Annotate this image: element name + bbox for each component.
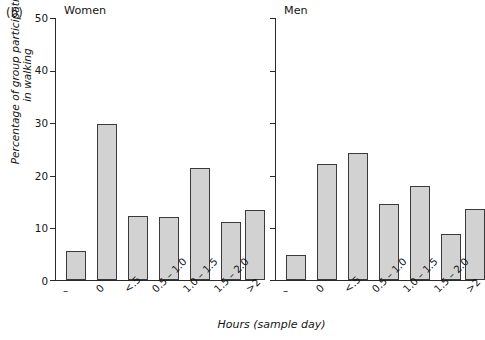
y-tick-label-0: 0 bbox=[26, 275, 48, 287]
y-axis-title: Percentage of group participating in wal… bbox=[9, 0, 39, 175]
women-tick-10 bbox=[50, 228, 55, 229]
y-tick-label-30: 30 bbox=[26, 117, 48, 129]
x-tick-label-women-0: – bbox=[63, 285, 68, 296]
bar-men-gt-2 bbox=[465, 209, 485, 280]
x-tick-label-women-1: 0 bbox=[94, 282, 106, 294]
men-tick-20 bbox=[270, 176, 275, 177]
bar-women-dash bbox=[66, 251, 86, 280]
x-axis-title: Hours (sample day) bbox=[0, 318, 483, 331]
panel-women: Women bbox=[55, 18, 256, 281]
women-tick-30 bbox=[50, 123, 55, 124]
bar-women-lt-half bbox=[128, 216, 148, 280]
panel-men: Men bbox=[275, 18, 476, 281]
women-tick-40 bbox=[50, 71, 55, 72]
bar-women-gt-2 bbox=[245, 210, 265, 280]
y-axis-title-line-1: Percentage of group participating bbox=[9, 0, 21, 175]
men-tick-50 bbox=[270, 18, 275, 19]
x-tick-label-men-1: 0 bbox=[314, 282, 326, 294]
panel-title-men: Men bbox=[284, 4, 308, 17]
men-tick-0 bbox=[270, 280, 275, 281]
women-tick-0 bbox=[50, 280, 55, 281]
x-tick-label-men-0: – bbox=[283, 285, 288, 296]
y-tick-label-20: 20 bbox=[26, 170, 48, 182]
y-tick-label-40: 40 bbox=[26, 64, 48, 76]
bar-women-0 bbox=[97, 124, 117, 280]
men-tick-40 bbox=[270, 71, 275, 72]
women-y-axis bbox=[55, 18, 56, 281]
y-tick-label-50: 50 bbox=[26, 12, 48, 24]
bar-men-dash bbox=[286, 255, 306, 280]
panel-title-women: Women bbox=[64, 4, 106, 17]
bar-men-lt-half bbox=[348, 153, 368, 280]
men-tick-10 bbox=[270, 228, 275, 229]
women-tick-50 bbox=[50, 18, 55, 19]
bar-men-0 bbox=[317, 164, 337, 280]
men-tick-30 bbox=[270, 123, 275, 124]
y-axis-title-line-2: in walking bbox=[21, 0, 33, 175]
y-tick-label-10: 10 bbox=[26, 222, 48, 234]
women-tick-20 bbox=[50, 176, 55, 177]
men-y-axis bbox=[275, 18, 276, 281]
